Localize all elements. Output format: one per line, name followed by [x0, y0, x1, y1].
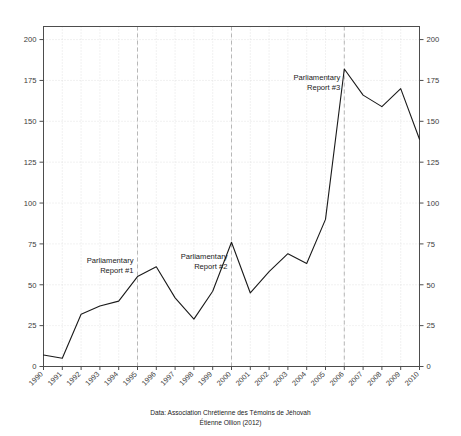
x-tick-label-1999: 1999 [196, 370, 214, 388]
annotation-report-1-line1: Parliamentary [87, 256, 134, 265]
annotation-layer: ParliamentaryReport #1ParliamentaryRepor… [87, 73, 341, 275]
y-tick-label-left: 125 [24, 158, 37, 167]
x-axis-ticks: 1990199119921993199419951996199719981999… [27, 367, 421, 388]
y-tick-label-right: 175 [427, 76, 440, 85]
x-tick-label-2008: 2008 [365, 370, 383, 388]
x-tick-label-2002: 2002 [253, 370, 271, 388]
x-tick-label-1994: 1994 [102, 370, 120, 388]
x-tick-label-2009: 2009 [384, 370, 402, 388]
caption-block: Data: Association Chrétienne des Témoins… [0, 408, 461, 428]
y-tick-label-right: 75 [427, 240, 435, 249]
annotation-report-1-line2: Report #1 [100, 266, 133, 275]
y-tick-label-left: 25 [28, 321, 36, 330]
y-tick-label-right: 125 [427, 158, 440, 167]
chart-title-clipped [0, 0, 461, 2]
annotation-report-2-line2: Report #2 [194, 262, 227, 271]
x-tick-label-1991: 1991 [46, 370, 64, 388]
caption-line-source: Data: Association Chrétienne des Témoins… [0, 408, 461, 418]
x-tick-label-2010: 2010 [403, 370, 421, 388]
y-tick-label-left: 50 [28, 281, 36, 290]
y-tick-label-left: 175 [24, 76, 37, 85]
line-chart-svg: 0025255050757510010012512515015017517520… [0, 0, 461, 436]
y-tick-label-right: 50 [427, 281, 435, 290]
x-tick-label-2007: 2007 [347, 370, 365, 388]
x-tick-label-2001: 2001 [234, 370, 252, 388]
chart-figure: 0025255050757510010012512515015017517520… [0, 0, 461, 436]
y-tick-label-left: 200 [24, 35, 37, 44]
y-tick-label-right: 150 [427, 117, 440, 126]
annotation-report-3-line1: Parliamentary [293, 73, 340, 82]
y-tick-label-left: 75 [28, 240, 36, 249]
annotation-report-2-line1: Parliamentary [181, 252, 228, 261]
y-tick-label-left: 100 [24, 199, 37, 208]
x-tick-label-1995: 1995 [121, 370, 139, 388]
x-tick-label-2003: 2003 [271, 370, 289, 388]
caption-line-author: Étienne Ollion (2012) [0, 418, 461, 428]
x-tick-label-2005: 2005 [309, 370, 327, 388]
x-tick-label-1996: 1996 [140, 370, 158, 388]
x-tick-label-2006: 2006 [328, 370, 346, 388]
y-tick-label-right: 200 [427, 35, 440, 44]
annotation-report-3-line2: Report #3 [307, 83, 340, 92]
x-tick-label-2004: 2004 [290, 370, 308, 388]
x-tick-label-1993: 1993 [83, 370, 101, 388]
y-tick-label-right: 100 [427, 199, 440, 208]
y-tick-label-right: 0 [427, 362, 431, 371]
x-tick-label-1990: 1990 [27, 370, 45, 388]
x-tick-label-1997: 1997 [159, 370, 177, 388]
y-tick-label-left: 0 [32, 362, 36, 371]
y-tick-label-left: 150 [24, 117, 37, 126]
x-tick-label-1998: 1998 [177, 370, 195, 388]
x-tick-label-2000: 2000 [215, 370, 233, 388]
x-tick-label-1992: 1992 [65, 370, 83, 388]
y-tick-label-right: 25 [427, 321, 435, 330]
